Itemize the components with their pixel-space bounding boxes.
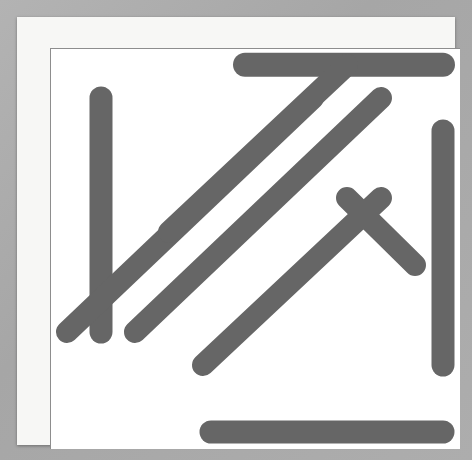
- puzzle-paper-sheet: [17, 17, 455, 445]
- letter-grid[interactable]: [50, 48, 460, 449]
- word-search-page: [0, 0, 472, 460]
- word-search-grid-container[interactable]: [50, 48, 460, 449]
